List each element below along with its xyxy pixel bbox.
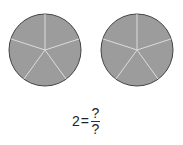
pie-diagrams [0,0,183,100]
fraction: ? ? [91,107,100,136]
numerator: ? [92,107,100,120]
whole-number: 2 [72,113,80,129]
denominator: ? [92,123,100,136]
equation: 2 = ? ? [72,103,100,139]
pie-circle-2 [101,14,173,86]
equals-sign: = [81,113,89,129]
pie-circle-1 [9,14,81,86]
